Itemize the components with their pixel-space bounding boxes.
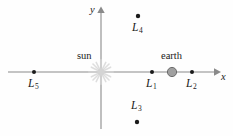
point-subscript-L2: 2 xyxy=(193,82,197,91)
diagram-canvas xyxy=(0,0,233,136)
point-dot-L4 xyxy=(136,14,140,18)
point-letter-L3: L xyxy=(131,99,138,111)
point-letter-L5: L xyxy=(28,77,35,89)
point-label-L2: L2 xyxy=(186,78,197,90)
point-dot-L1 xyxy=(150,70,154,74)
point-letter-L2: L xyxy=(186,77,193,89)
point-label-L1: L1 xyxy=(146,78,157,90)
y-axis-arrowhead xyxy=(97,7,104,14)
point-dot-L3 xyxy=(135,120,139,124)
x-axis xyxy=(8,68,221,76)
point-subscript-L4: 4 xyxy=(139,26,143,35)
earth-sphere-icon xyxy=(167,67,176,76)
point-label-L3: L3 xyxy=(131,100,142,112)
sun-label: sun xyxy=(77,51,92,62)
point-label-L4: L4 xyxy=(132,22,143,34)
point-subscript-L3: 3 xyxy=(138,104,142,113)
x-axis-arrowhead xyxy=(214,68,221,76)
earth-label: earth xyxy=(161,51,182,62)
point-letter-L4: L xyxy=(132,21,139,33)
point-label-L5: L5 xyxy=(28,78,39,90)
lagrange-points-diagram: x y sun earth L1 L2 L3 L4 L5 xyxy=(0,0,233,136)
x-axis-label: x xyxy=(221,72,226,83)
point-letter-L1: L xyxy=(146,77,153,89)
sun-starburst-icon xyxy=(89,60,113,84)
point-subscript-L1: 1 xyxy=(153,82,157,91)
y-axis-label: y xyxy=(90,5,95,16)
point-dot-L2 xyxy=(190,70,194,74)
point-dot-L5 xyxy=(32,70,36,74)
point-subscript-L5: 5 xyxy=(35,82,39,91)
